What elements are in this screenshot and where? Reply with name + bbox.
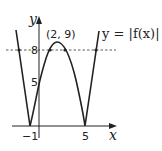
intersection-dot [94, 48, 97, 51]
intersection-dot [63, 48, 66, 51]
curve-equation-label: y = |f(x)| [101, 26, 160, 41]
intersection-dot [48, 48, 51, 51]
y-axis-label: y [28, 11, 38, 27]
peak-label: (2, 9) [46, 28, 76, 41]
curve-abs-f [16, 30, 99, 126]
graph: y x (2, 9) 8 5 −1 5 y = |f(x)| [0, 0, 162, 151]
x-tick-5: 5 [82, 130, 89, 143]
y-tick-5: 5 [31, 76, 38, 89]
y-tick-8: 8 [31, 44, 38, 57]
x-axis-label: x [109, 127, 117, 143]
x-tick-minus1: −1 [22, 130, 38, 143]
intersection-dot [17, 48, 20, 51]
